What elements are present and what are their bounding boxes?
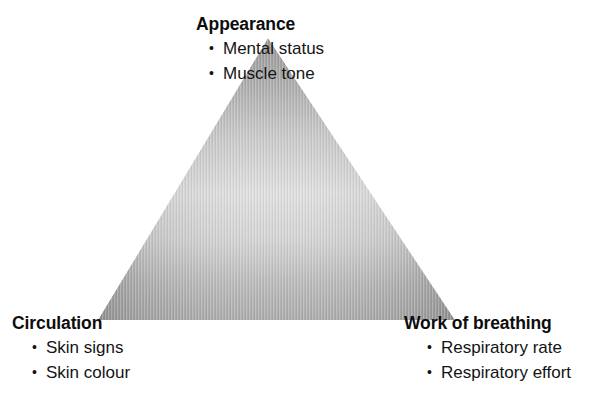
corner-circulation: Circulation Skin signs Skin colour xyxy=(12,313,130,385)
corner-appearance-bullets: Mental status Muscle tone xyxy=(209,36,324,86)
list-item: Muscle tone xyxy=(209,61,324,86)
corner-work-of-breathing-title: Work of breathing xyxy=(404,313,571,334)
corner-appearance: Appearance Mental status Muscle tone xyxy=(196,14,324,86)
list-item: Skin signs xyxy=(32,335,130,360)
pediatric-assessment-triangle-diagram: Appearance Mental status Muscle tone Cir… xyxy=(0,0,600,395)
list-item: Mental status xyxy=(209,36,324,61)
list-item: Respiratory rate xyxy=(427,335,571,360)
corner-work-of-breathing-bullets: Respiratory rate Respiratory effort xyxy=(427,335,571,385)
corner-appearance-title: Appearance xyxy=(196,14,324,35)
corner-circulation-bullets: Skin signs Skin colour xyxy=(32,335,130,385)
corner-work-of-breathing: Work of breathing Respiratory rate Respi… xyxy=(404,313,571,385)
list-item: Respiratory effort xyxy=(427,360,571,385)
corner-circulation-title: Circulation xyxy=(12,313,130,334)
list-item: Skin colour xyxy=(32,360,130,385)
